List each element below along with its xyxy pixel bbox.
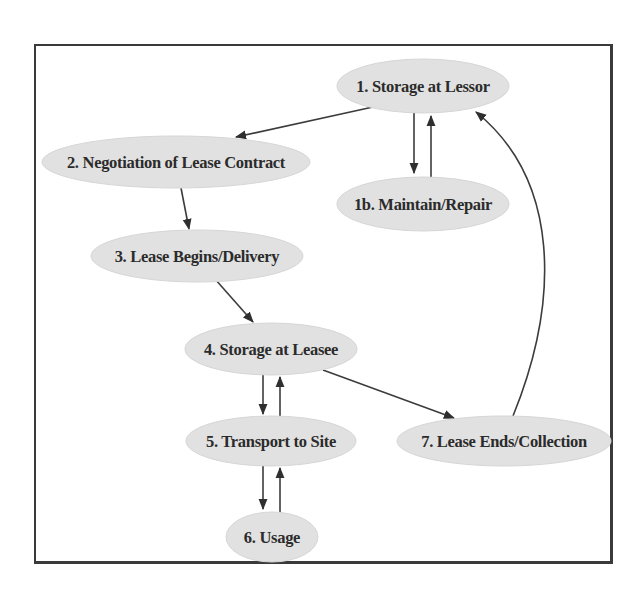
node-6: 6. Usage: [226, 512, 318, 562]
edge-7-to-1: [476, 112, 545, 416]
node-5-label: 5. Transport to Site: [206, 432, 336, 451]
node-4: 4. Storage at Leasee: [185, 323, 357, 375]
node-4-label: 4. Storage at Leasee: [204, 340, 338, 359]
edge-1-to-2: [236, 107, 373, 137]
node-6-label: 6. Usage: [244, 528, 300, 547]
edge-2-to-3: [181, 188, 189, 229]
node-3-label: 3. Lease Begins/Delivery: [115, 247, 281, 266]
node-1b: 1b. Maintain/Repair: [337, 177, 509, 231]
node-7-label: 7. Lease Ends/Collection: [421, 432, 587, 451]
node-2: 2. Negotiation of Lease Contract: [42, 136, 310, 188]
node-1b-label: 1b. Maintain/Repair: [354, 195, 492, 214]
node-2-label: 2. Negotiation of Lease Contract: [67, 153, 286, 172]
node-7: 7. Lease Ends/Collection: [397, 416, 611, 466]
node-5: 5. Transport to Site: [186, 416, 356, 466]
lease-lifecycle-diagram: 1. Storage at Lessor 1b. Maintain/Repair…: [0, 0, 644, 595]
node-1: 1. Storage at Lessor: [337, 59, 509, 113]
node-1-label: 1. Storage at Lessor: [356, 77, 489, 96]
edge-3-to-4: [215, 279, 253, 322]
node-3: 3. Lease Begins/Delivery: [91, 230, 303, 282]
edge-4-to-7: [323, 370, 454, 418]
